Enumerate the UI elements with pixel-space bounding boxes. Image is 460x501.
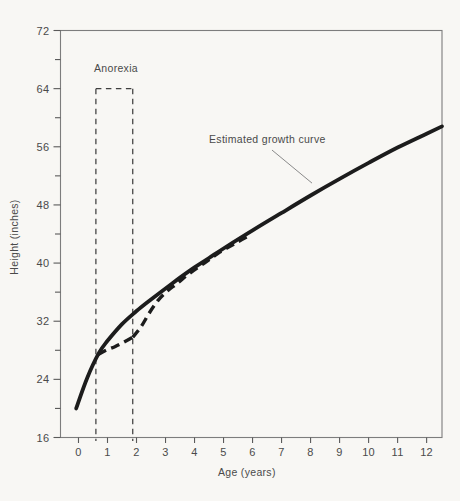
x-tick-label: 3 [162,446,168,458]
y-tick-label: 16 [37,432,50,444]
y-tick-label: 72 [37,25,50,37]
estimated-growth-solid-curve [76,126,442,408]
y-tick-label: 64 [37,83,50,95]
anorexia-annotation-label: Anorexia [92,62,140,74]
x-tick-label: 9 [336,446,342,458]
x-tick-label: 11 [392,446,404,458]
x-tick-label: 4 [191,446,197,458]
x-tick-label: 12 [420,446,433,458]
x-axis-title: Age (years) [218,466,276,478]
x-tick-label: 2 [133,446,139,458]
curve-label-leader-line [272,150,312,183]
plot-frame [61,31,443,438]
x-tick-label: 0 [75,446,81,458]
x-tick-label: 10 [362,446,375,458]
x-tick-label: 8 [307,446,313,458]
y-tick-label: 32 [37,315,50,327]
y-tick-label: 24 [37,373,50,385]
x-tick-label: 5 [220,446,226,458]
actual-growth-dashed-curve-recovery [133,236,250,338]
y-axis-title: Height (inches) [8,199,20,274]
x-tick-label: 7 [278,446,284,458]
x-tick-label: 6 [249,446,255,458]
y-tick-label: 56 [37,141,50,153]
y-tick-label: 48 [37,199,50,211]
y-tick-label: 40 [37,257,50,269]
x-tick-label: 1 [104,446,110,458]
chart-canvas: 16243240485664720123456789101112 [0,0,460,501]
estimated-growth-curve-label: Estimated growth curve [209,133,326,145]
growth-chart-figure: 16243240485664720123456789101112 Height … [0,0,460,501]
